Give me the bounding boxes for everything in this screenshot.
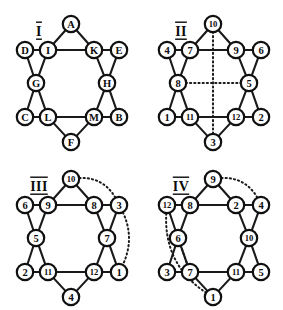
node-label: 8 (175, 78, 180, 89)
graph-node: 6 (253, 42, 269, 58)
node-label: 8 (91, 200, 96, 211)
node-label: 10 (67, 174, 76, 184)
node-label: 5 (33, 233, 38, 244)
node-label: 12 (163, 200, 172, 210)
graph-edge (97, 57, 104, 76)
graph-edge (239, 245, 247, 265)
node-label: K (90, 45, 99, 56)
graph-node: 11 (40, 264, 56, 280)
node-label: 9 (210, 174, 215, 185)
graph-edge (195, 123, 208, 137)
node-group: ADIKEGHCLMBF (17, 16, 127, 150)
graph-edge (39, 212, 46, 231)
node-label: 4 (164, 45, 170, 56)
graph-node: 11 (228, 264, 244, 280)
graph-node: L (40, 109, 56, 125)
graph-node: 1 (111, 264, 127, 280)
hexagram-panel-iv: 912824610371151IV (142, 155, 283, 310)
graph-edge (97, 90, 105, 110)
graph-edge (27, 90, 33, 110)
node-label: 11 (232, 267, 240, 277)
graph-node: 2 (228, 197, 244, 213)
graph-edge (252, 245, 259, 265)
graph-node: 10 (241, 230, 257, 246)
node-label: A (67, 19, 75, 30)
graph-node: 1 (205, 289, 221, 305)
graph-edge (239, 90, 247, 110)
graph-node: 5 (28, 230, 44, 246)
node-label: E (115, 45, 122, 56)
graph-node: 2 (17, 264, 33, 280)
node-label: 1 (116, 267, 121, 278)
graph-edge (239, 212, 246, 231)
node-label: 9 (233, 45, 238, 56)
graph-node: E (111, 42, 127, 58)
node-label: L (44, 112, 51, 123)
graph-edge (76, 278, 89, 292)
node-label: 12 (232, 112, 241, 122)
node-label: 4 (258, 200, 264, 211)
graph-edge (53, 185, 66, 200)
graph-node: A (63, 16, 79, 32)
node-label: 2 (258, 112, 263, 123)
graph-node: 3 (111, 197, 127, 213)
node-label: 5 (246, 78, 251, 89)
graph-node: 3 (205, 134, 221, 150)
graph-node: 4 (63, 289, 79, 305)
graph-node: D (17, 42, 33, 58)
graph-node: 4 (253, 197, 269, 213)
graph-edge (218, 123, 231, 137)
graph-edge (97, 245, 105, 265)
graph-edge (110, 90, 117, 110)
graph-edge (195, 30, 208, 45)
graph-edge (169, 90, 175, 110)
graph-node: 6 (170, 230, 186, 246)
node-label: 2 (22, 267, 27, 278)
node-label: 11 (44, 267, 52, 277)
graph-edge (39, 245, 46, 265)
node-label: 7 (187, 267, 192, 278)
graph-node: 5 (253, 264, 269, 280)
graph-node: 9 (205, 171, 221, 187)
graph-node: 11 (182, 109, 198, 125)
graph-edge (181, 212, 188, 231)
node-label: B (115, 112, 122, 123)
graph-node: 10 (205, 16, 221, 32)
graph-edge (27, 212, 33, 231)
graph-node: 8 (182, 197, 198, 213)
node-label: 4 (68, 292, 74, 303)
graph-node: 4 (159, 42, 175, 58)
graph-node: 3 (159, 264, 175, 280)
panel-title-ii: II (175, 24, 187, 39)
graph-node: F (63, 134, 79, 150)
node-label: 10 (209, 19, 218, 29)
graph-node: G (28, 75, 44, 91)
node-label: 9 (45, 200, 50, 211)
graph-node: 8 (170, 75, 186, 91)
graph-edge (110, 245, 117, 265)
node-label: 7 (187, 45, 192, 56)
graph-edge (76, 185, 89, 200)
graph-edge (53, 30, 66, 45)
graph-edge (252, 212, 259, 231)
node-label: 7 (104, 233, 109, 244)
hexagram-graph-iv: 912824610371151IV (142, 155, 283, 310)
graph-node: 8 (86, 197, 102, 213)
node-label: 1 (210, 292, 215, 303)
graph-node: 5 (241, 75, 257, 91)
graph-node: 7 (99, 230, 115, 246)
graph-node: 12 (228, 109, 244, 125)
hexagram-graph-i: ADIKEGHCLMBFI (0, 0, 141, 155)
graph-edge (169, 212, 175, 231)
node-label: C (21, 112, 29, 123)
node-label: I (46, 45, 50, 56)
node-label: 10 (245, 233, 254, 243)
node-label: H (103, 78, 111, 89)
graph-edge (169, 57, 175, 76)
graph-edge (110, 57, 117, 76)
graph-edge (76, 123, 89, 137)
graph-edge (218, 185, 231, 200)
graph-node: I (40, 42, 56, 58)
graph-node: 9 (228, 42, 244, 58)
graph-node: 2 (253, 109, 269, 125)
